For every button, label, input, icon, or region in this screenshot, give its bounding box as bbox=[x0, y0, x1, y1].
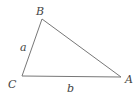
triangle-diagram: B C A a b bbox=[0, 0, 138, 99]
side-label-a: a bbox=[20, 41, 27, 54]
vertex-label-c: C bbox=[8, 78, 17, 91]
vertex-label-a: A bbox=[124, 73, 133, 86]
vertex-label-b: B bbox=[35, 5, 44, 18]
side-label-b: b bbox=[67, 82, 74, 95]
triangle-abc bbox=[22, 19, 121, 77]
